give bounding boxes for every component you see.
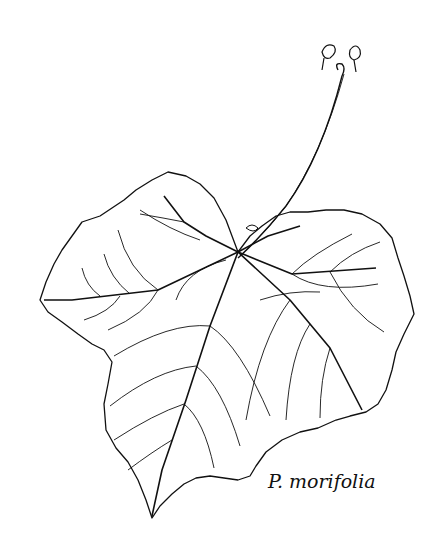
illustration: P. morifolia: [0, 0, 433, 551]
species-caption: P. morifolia: [268, 470, 376, 492]
leaf-outline: [40, 172, 414, 518]
veins: [44, 196, 376, 516]
tendril: [322, 45, 360, 72]
leaf-drawing: [0, 0, 433, 551]
